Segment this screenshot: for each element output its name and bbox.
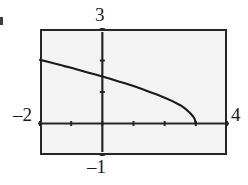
x-axis xyxy=(38,121,229,126)
curve-series xyxy=(40,60,196,124)
axis-label-y-min: –1 xyxy=(87,157,106,176)
axis-label-x-max: 4 xyxy=(231,105,241,124)
axis-label-x-min: –2 xyxy=(13,105,32,124)
scan-edge-artifact xyxy=(0,17,3,25)
y-axis xyxy=(100,29,105,155)
plot-canvas xyxy=(40,29,227,155)
figure-container: 3 –1 –2 4 xyxy=(0,0,248,185)
axis-label-y-max: 3 xyxy=(95,5,105,24)
